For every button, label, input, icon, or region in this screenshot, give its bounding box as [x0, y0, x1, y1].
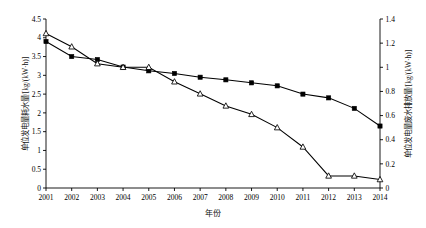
data-point-marker — [224, 78, 228, 82]
x-axis-tick-label: 2014 — [373, 193, 388, 202]
left-axis-tick-label: 4 — [37, 33, 41, 42]
x-axis-tick-label: 2008 — [218, 193, 233, 202]
left-axis-tick-label: 0.5 — [32, 165, 42, 174]
data-point-marker — [44, 39, 48, 43]
right-axis: 00.20.40.60.811.21.4 — [380, 15, 395, 193]
left-axis-tick-label: 0 — [37, 184, 41, 193]
right-axis-tick-label: 1.2 — [386, 39, 396, 48]
x-axis-tick-label: 2004 — [116, 193, 131, 202]
left-axis-tick-label: 2.5 — [32, 90, 42, 99]
left-axis-tick-label: 4.5 — [32, 15, 42, 24]
data-point-marker — [327, 96, 331, 100]
x-axis-tick-label: 2002 — [64, 193, 79, 202]
x-axis-tick-label: 2006 — [167, 193, 182, 202]
data-point-marker — [378, 124, 382, 128]
left-axis-tick-label: 3.5 — [32, 52, 42, 61]
data-point-marker — [69, 44, 75, 49]
data-point-marker — [70, 54, 74, 58]
data-point-marker — [172, 71, 176, 75]
left-axis-tick-label: 1 — [37, 146, 41, 155]
right-axis-tick-label: 1.4 — [386, 15, 396, 24]
right-axis-tick-label: 1 — [386, 63, 390, 72]
data-point-marker — [198, 75, 202, 79]
data-point-marker — [43, 30, 49, 35]
x-axis-tick-label: 2013 — [347, 193, 362, 202]
x-axis-tick-label: 2012 — [321, 193, 336, 202]
plot-area: 00.511.522.533.544.5 00.20.40.60.811.21.… — [0, 0, 426, 228]
x-axis-tick-label: 2005 — [141, 193, 156, 202]
x-axis-tick-label: 2009 — [244, 193, 259, 202]
series-line — [46, 42, 380, 127]
right-axis-tick-label: 0 — [386, 184, 390, 193]
left-axis-tick-label: 1.5 — [32, 127, 42, 136]
data-point-marker — [275, 84, 279, 88]
right-axis-tick-label: 0.4 — [386, 135, 396, 144]
data-point-marker — [172, 79, 178, 84]
left-axis-tick-label: 2 — [37, 109, 41, 118]
x-axis-tick-label: 2007 — [193, 193, 208, 202]
data-point-marker — [352, 106, 356, 110]
x-axis: 2001200220032004200520062007200820092010… — [39, 188, 388, 202]
right-axis-tick-label: 0.8 — [386, 87, 396, 96]
series-line — [46, 33, 380, 179]
right-axis-tick-label: 0.2 — [386, 160, 396, 169]
data-point-marker — [274, 125, 280, 130]
data-point-marker — [300, 144, 306, 149]
x-axis-tick-label: 2011 — [296, 193, 311, 202]
left-axis-tick-label: 3 — [37, 71, 41, 80]
x-axis-tick-label: 2003 — [90, 193, 105, 202]
dual-axis-line-chart: 单位发电量耗水量/[kg/(kW·h)] 单位发电量废水排放量/[kg/(kW·… — [0, 0, 426, 228]
data-point-marker — [249, 81, 253, 85]
data-point-marker — [301, 92, 305, 96]
x-axis-tick-label: 2001 — [39, 193, 54, 202]
right-axis-tick-label: 0.6 — [386, 111, 396, 120]
x-axis-tick-label: 2010 — [270, 193, 285, 202]
series-layer — [43, 30, 383, 181]
